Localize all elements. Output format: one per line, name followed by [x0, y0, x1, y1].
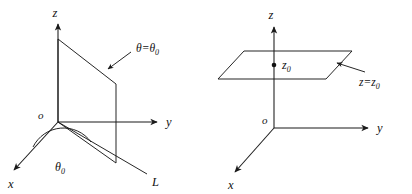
left-surface-label-subscript: 0	[155, 48, 159, 57]
right-x-axis	[235, 128, 274, 172]
left-z-axis-label: z	[52, 6, 58, 20]
right-y-axis-label: y	[375, 121, 383, 135]
left-line-L	[58, 122, 147, 174]
left-angle-label-subscript: 0	[61, 167, 65, 176]
right-surface-label-eq: =	[363, 76, 371, 88]
right-z-axis-label: z	[268, 8, 274, 22]
panel-left: z y x o θ=θ0 θ0 L	[7, 6, 172, 191]
left-origin-label: o	[38, 109, 44, 121]
right-origin-label: o	[262, 114, 268, 126]
right-height-label: z0	[281, 58, 291, 74]
left-x-axis	[14, 122, 58, 170]
left-surface-label-eq: =	[142, 42, 150, 54]
panel-right: z y x o z0 z=z0	[218, 8, 383, 192]
right-height-label-subscript: 0	[287, 65, 291, 74]
geometry-figure: z y x o θ=θ0 θ0 L z y x	[0, 0, 412, 194]
figure-container: z y x o θ=θ0 θ0 L z y x	[0, 0, 412, 194]
right-surface-leader-arrow	[337, 63, 365, 72]
right-z0-point-marker	[272, 63, 277, 68]
right-surface-label-subscript: 0	[376, 82, 380, 91]
right-surface-label: z=z0	[358, 76, 380, 91]
left-angle-arc	[33, 128, 91, 147]
left-y-axis-label: y	[164, 115, 172, 129]
left-x-axis-label: x	[7, 177, 14, 191]
left-surface-leader-arrow	[108, 52, 131, 69]
left-half-plane-theta	[58, 39, 116, 163]
left-surface-label: θ=θ0	[136, 42, 159, 57]
left-angle-label: θ0	[55, 160, 65, 176]
right-x-axis-label: x	[227, 178, 234, 192]
left-line-L-label: L	[151, 175, 159, 189]
